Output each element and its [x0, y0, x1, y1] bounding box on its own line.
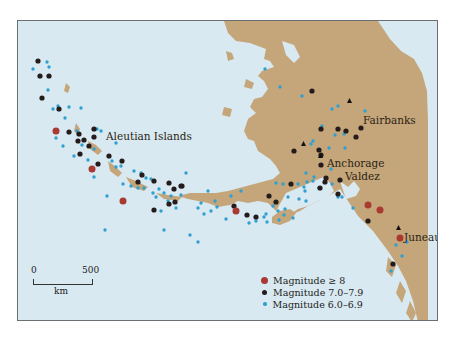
earthquake-mag7-point [119, 158, 124, 163]
earthquake-mag7-point [358, 125, 363, 130]
earthquake-mag6-point [199, 201, 202, 204]
earthquake-mag6-point [51, 107, 54, 110]
earthquake-mag7-point [35, 58, 40, 63]
earthquake-mag6-point [157, 187, 160, 190]
earthquake-mag6-point [72, 154, 75, 157]
earthquake-mag6-point [400, 254, 403, 257]
earthquake-mag7-point [291, 148, 296, 153]
blue-dot-icon [263, 302, 267, 306]
aleutian-islands-label: Aleutian Islands [106, 131, 192, 142]
scale-unit-label: km [54, 286, 68, 296]
earthquake-mag6-point [311, 179, 314, 182]
earthquake-mag6-point [99, 129, 102, 132]
black-dot-icon [262, 290, 267, 295]
earthquake-mag6-point [304, 171, 307, 174]
earthquake-mag6-point [92, 175, 95, 178]
scale-line [33, 279, 93, 285]
earthquake-mag8-point [365, 202, 372, 209]
earthquake-mag8-point [120, 198, 127, 205]
earthquake-mag6-point [363, 109, 366, 112]
earthquake-mag6-point [142, 186, 145, 189]
earthquake-mag6-point [312, 175, 315, 178]
earthquake-mag7-point [343, 128, 348, 133]
earthquake-mag7-point [244, 212, 249, 217]
earthquake-mag7-point [56, 106, 61, 111]
earthquake-mag6-point [303, 189, 306, 192]
earthquake-mag6-point [262, 215, 265, 218]
earthquake-mag7-point [323, 175, 328, 180]
legend-label: Magnitude 6.0–6.9 [273, 299, 363, 310]
earthquake-mag6-point [330, 182, 333, 185]
earthquake-mag6-point [297, 197, 300, 200]
earthquake-mag6-point [54, 136, 57, 139]
legend-item-mag8: Magnitude ≥ 8 [261, 274, 363, 286]
earthquake-mag6-point [336, 104, 339, 107]
earthquake-mag7-point [39, 95, 44, 100]
earthquake-mag6-point [389, 269, 392, 272]
earthquake-mag7-point [106, 153, 111, 158]
earthquake-mag6-point [209, 209, 212, 212]
earthquake-mag6-point [169, 194, 172, 197]
earthquake-mag6-point [151, 191, 154, 194]
earthquake-mag6-point [213, 199, 216, 202]
earthquake-mag6-point [103, 228, 106, 231]
legend-label: Magnitude ≥ 8 [273, 275, 345, 286]
earthquake-mag6-point [196, 206, 199, 209]
earthquake-mag7-point [335, 126, 340, 131]
earthquake-mag6-point [278, 85, 281, 88]
earthquake-mag6-point [121, 182, 124, 185]
earthquake-mag6-point [330, 107, 333, 110]
earthquake-mag7-point [309, 88, 314, 93]
earthquake-mag7-point [81, 137, 86, 142]
earthquake-mag6-point [394, 243, 397, 246]
earthquake-mag7-point [139, 172, 144, 177]
juneau-label: Juneau [404, 232, 438, 243]
earthquake-mag6-point [162, 228, 165, 231]
legend-label: Magnitude 7.0–7.9 [273, 287, 363, 298]
earthquake-mag6-point [271, 204, 274, 207]
earthquake-mag6-point [263, 67, 266, 70]
scale-bar: 0 500 km [30, 265, 110, 301]
earthquake-mag6-point [343, 146, 346, 149]
earthquake-mag6-point [327, 146, 330, 149]
earthquake-mag6-point [291, 216, 294, 219]
earthquake-mag7-point [91, 134, 96, 139]
earthquake-mag6-point [154, 195, 157, 198]
earthquake-mag6-point [281, 182, 284, 185]
earthquake-mag6-point [351, 206, 354, 209]
earthquake-mag8-point [377, 207, 384, 214]
earthquake-mag6-point [45, 60, 48, 63]
earthquake-mag6-point [105, 194, 108, 197]
fairbanks-label: Fairbanks [363, 115, 416, 126]
earthquake-mag6-point [80, 143, 83, 146]
scale-start-label: 0 [31, 265, 37, 275]
earthquake-mag6-point [215, 205, 218, 208]
earthquake-mag6-point [67, 105, 70, 108]
earthquake-mag7-point [317, 185, 322, 190]
earthquake-mag6-point [254, 219, 257, 222]
earthquake-mag7-point [151, 178, 156, 183]
earthquake-mag7-point [273, 199, 278, 204]
earthquake-mag6-point [174, 206, 177, 209]
earthquake-mag6-point [333, 133, 336, 136]
anchorage-label: Anchorage [327, 158, 385, 169]
valdez-label: Valdez [345, 171, 380, 182]
earthquake-mag8-point [89, 166, 96, 173]
earthquake-mag6-point [184, 171, 187, 174]
earthquake-mag6-point [79, 106, 82, 109]
legend: Magnitude ≥ 8 Magnitude 7.0–7.9 Magnitud… [261, 274, 363, 310]
earthquake-mag6-point [129, 184, 132, 187]
earthquake-mag6-point [92, 147, 95, 150]
earthquake-mag6-point [286, 195, 289, 198]
earthquake-mag6-point [47, 65, 50, 68]
earthquake-mag6-point [61, 144, 64, 147]
earthquake-mag6-point [119, 164, 122, 167]
earthquake-mag6-point [159, 209, 162, 212]
earthquake-mag6-point [277, 218, 280, 221]
earthquake-mag6-point [86, 158, 89, 161]
earthquake-mag6-point [110, 159, 113, 162]
earthquake-mag6-point [229, 194, 232, 197]
earthquake-mag6-point [162, 191, 165, 194]
earthquake-mag6-point [276, 209, 279, 212]
earthquake-mag6-point [296, 182, 299, 185]
